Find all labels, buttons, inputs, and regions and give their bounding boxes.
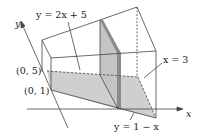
leader-bottom-curve <box>130 113 134 120</box>
x-axis-arrow-icon <box>177 107 183 111</box>
y-axis-label: y <box>14 18 21 29</box>
label-bottom-curve: y = 1 − x <box>113 121 159 132</box>
y-axis-arrow-icon <box>21 21 25 28</box>
label-point-0-1: (0, 1) <box>24 85 50 96</box>
label-plane: x = 3 <box>163 54 188 65</box>
label-top-curve: y = 2x + 5 <box>35 9 87 20</box>
top-left-edge <box>42 40 51 58</box>
cross-section-edge <box>117 53 121 109</box>
x-axis-label: x <box>186 108 192 119</box>
label-point-0-5: (0, 5) <box>16 65 42 76</box>
solid-region-diagram: y x y = 2x + 5 x = 3 y = 1 − x (0, 5) (0… <box>0 0 197 136</box>
leader-plane <box>144 63 162 78</box>
